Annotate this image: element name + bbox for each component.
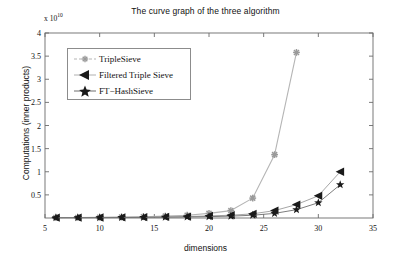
legend-marker-asterisk-icon xyxy=(73,52,97,66)
x-axis-tick-label: 30 xyxy=(314,224,322,233)
chart-legend: TripleSieve Filtered Triple Sieve FT−Has… xyxy=(67,48,191,100)
series-filtered-triple-sieve xyxy=(51,168,344,222)
series-line xyxy=(56,185,340,218)
series-ft-hashsieve xyxy=(52,180,345,221)
y-axis-tick-label: 0.5 xyxy=(31,190,41,199)
chart-figure: The curve graph of the three algorithm x… xyxy=(0,0,411,262)
y-axis-tick-label: 2.5 xyxy=(31,98,41,107)
x-axis-tick-label: 20 xyxy=(205,224,213,233)
legend-marker-left-triangle-icon xyxy=(73,68,97,82)
legend-item-filtered-triple-sieve: Filtered Triple Sieve xyxy=(73,67,173,83)
legend-label-ft-hashsieve: FT−HashSieve xyxy=(99,86,153,96)
y-axis-tick-label: 1.5 xyxy=(31,144,41,153)
legend-item-triplesieve: TripleSieve xyxy=(73,51,141,67)
x-axis-tick-label: 5 xyxy=(43,224,47,233)
x-axis-tick-label: 25 xyxy=(260,224,268,233)
y-axis-tick-label: 2 xyxy=(37,121,41,130)
legend-marker-star-icon xyxy=(73,84,97,98)
y-axis-tick-label: 3.5 xyxy=(31,52,41,61)
x-axis-tick-label: 10 xyxy=(96,224,104,233)
x-axis-tick-label: 35 xyxy=(369,224,377,233)
plot-area xyxy=(0,0,411,262)
legend-label-filtered-triple-sieve: Filtered Triple Sieve xyxy=(99,70,173,80)
legend-label-triplesieve: TripleSieve xyxy=(99,54,141,64)
x-axis-tick-label: 15 xyxy=(150,224,158,233)
y-axis-tick-label: 4 xyxy=(37,29,41,38)
y-axis-tick-label: 1 xyxy=(37,167,41,176)
legend-item-ft-hashsieve: FT−HashSieve xyxy=(73,83,153,99)
y-axis-tick-label: 3 xyxy=(37,75,41,84)
